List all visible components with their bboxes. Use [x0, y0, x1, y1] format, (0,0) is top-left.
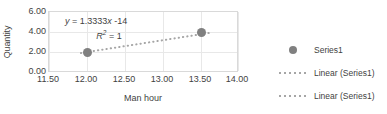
- x-axis-title: Man hour: [48, 93, 238, 103]
- y-axis-tick-labels: 6.00 4.00 2.00 0.00: [16, 0, 46, 114]
- x-tick-label: 13.50: [183, 75, 217, 84]
- plot-area: y = 1.3333x -14 R2 = 1: [48, 11, 238, 72]
- x-tick-label: 12.00: [69, 75, 103, 84]
- legend-item-linear-1[interactable]: Linear (Series1): [278, 61, 386, 84]
- scatter-chart: Quantity 6.00 4.00 2.00 0.00 y = 1.3333x…: [0, 0, 387, 114]
- x-tick-label: 12.50: [107, 75, 141, 84]
- y-tick-label: 4.00: [22, 27, 46, 36]
- x-tick-label: 11.50: [31, 75, 65, 84]
- legend-item-series1[interactable]: Series1: [278, 38, 386, 61]
- data-point-marker[interactable]: [197, 28, 206, 37]
- trendline: [49, 12, 239, 73]
- data-point-marker[interactable]: [83, 48, 92, 57]
- x-tick-label: 14.00: [220, 75, 254, 84]
- y-axis-title: Quantity: [2, 16, 12, 68]
- x-tick-label: 13.00: [145, 75, 179, 84]
- chart-legend: Series1 Linear (Series1) Linear (Series1…: [278, 38, 386, 107]
- legend-label: Linear (Series1): [308, 91, 374, 101]
- legend-item-linear-2[interactable]: Linear (Series1): [278, 84, 386, 107]
- legend-dotted-line-icon: [278, 67, 308, 79]
- y-tick-label: 6.00: [22, 7, 46, 16]
- legend-marker-dot-icon: [278, 44, 308, 56]
- legend-dotted-line-icon: [278, 90, 308, 102]
- y-tick-label: 2.00: [22, 47, 46, 56]
- legend-label: Series1: [308, 45, 343, 55]
- legend-label: Linear (Series1): [308, 68, 374, 78]
